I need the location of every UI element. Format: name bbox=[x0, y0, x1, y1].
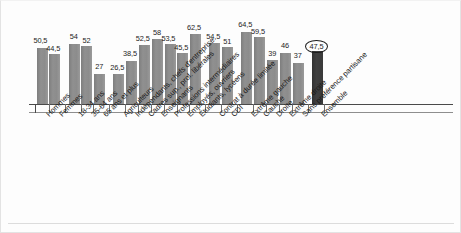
bar-value-label-10: 45,5 bbox=[174, 44, 188, 51]
bar-value-label-9: 53,5 bbox=[161, 35, 175, 42]
bar-chart: 50,544,554522726,538,552,55853,545,562,5… bbox=[0, 0, 461, 233]
bar-value-label-6: 38,5 bbox=[123, 50, 137, 57]
figure-bottom-rule bbox=[8, 223, 454, 224]
x-axis-category-labels: HommesFemmes18-34 ans35-64 ans65 ans et … bbox=[0, 110, 461, 233]
bar-value-label-13: 51 bbox=[223, 38, 231, 45]
bar-value-label-2: 54 bbox=[70, 33, 78, 40]
bar-value-label-3: 52 bbox=[83, 37, 91, 44]
bar-value-label-18: 37 bbox=[294, 52, 302, 59]
bar-value-label-1: 44,5 bbox=[46, 45, 60, 52]
bar-value-label-4: 27 bbox=[95, 63, 103, 70]
bar-3 bbox=[81, 46, 92, 104]
bar-value-label-16: 39 bbox=[268, 50, 276, 57]
bar-value-label-7: 52,5 bbox=[136, 35, 150, 42]
bar-0 bbox=[37, 48, 48, 104]
bar-value-label-17: 46 bbox=[281, 42, 289, 49]
bar-value-label-19: 47,5 bbox=[305, 40, 328, 53]
bar-value-label-8: 58 bbox=[153, 29, 161, 36]
bar-value-label-15: 59,5 bbox=[251, 28, 265, 35]
bar-value-label-11: 62,5 bbox=[187, 24, 201, 31]
bar-value-label-5: 26,5 bbox=[110, 64, 124, 71]
